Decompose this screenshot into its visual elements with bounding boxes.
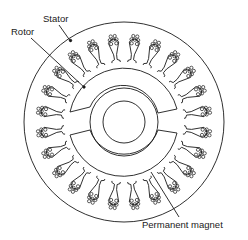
stator-slot bbox=[89, 44, 105, 68]
conductor bbox=[155, 48, 158, 51]
conductor bbox=[208, 107, 211, 110]
conductor bbox=[42, 89, 45, 92]
conductor bbox=[36, 130, 39, 133]
stator-bore-circle bbox=[65, 63, 183, 181]
conductor bbox=[61, 70, 64, 73]
conductor bbox=[110, 198, 113, 201]
conductor bbox=[135, 42, 138, 45]
conductor bbox=[44, 113, 47, 116]
conductor bbox=[76, 185, 79, 188]
conductor bbox=[68, 53, 71, 56]
conductor bbox=[75, 53, 78, 56]
conductor bbox=[196, 93, 199, 96]
conductor bbox=[136, 35, 139, 38]
conductor bbox=[132, 34, 135, 37]
rotor-label: Rotor bbox=[11, 27, 34, 37]
stator-slot bbox=[143, 176, 159, 200]
conductor bbox=[187, 74, 190, 77]
conductor bbox=[110, 42, 113, 45]
conductor bbox=[203, 152, 206, 155]
conductor bbox=[37, 107, 40, 110]
conductor bbox=[208, 134, 211, 137]
rotor-leader-dot bbox=[83, 86, 85, 88]
conductor bbox=[109, 206, 112, 209]
permanent-magnet-lower bbox=[70, 130, 177, 176]
conductor bbox=[44, 133, 47, 136]
conductor bbox=[190, 175, 193, 178]
conductor bbox=[55, 66, 58, 69]
conductor bbox=[71, 51, 74, 54]
conductor bbox=[202, 155, 205, 158]
conductor bbox=[95, 46, 98, 49]
conductor bbox=[72, 59, 75, 62]
conductor bbox=[201, 113, 204, 116]
stator-slot bbox=[178, 141, 202, 157]
conductor bbox=[203, 89, 206, 92]
conductor bbox=[192, 172, 195, 175]
conductor bbox=[43, 86, 46, 89]
conductor bbox=[168, 185, 171, 188]
conductor bbox=[91, 201, 94, 204]
conductor bbox=[174, 51, 177, 54]
conductor bbox=[58, 74, 61, 77]
conductor bbox=[200, 133, 203, 136]
conductor bbox=[58, 166, 61, 169]
conductor bbox=[71, 190, 74, 193]
shaft-circle bbox=[103, 101, 145, 143]
conductor bbox=[42, 152, 45, 155]
conductor bbox=[136, 206, 139, 209]
conductor bbox=[200, 108, 203, 111]
conductor bbox=[170, 188, 173, 191]
conductor bbox=[90, 192, 93, 195]
stator-leader-dot bbox=[69, 39, 71, 41]
stator-slots bbox=[36, 34, 211, 209]
conductor bbox=[194, 153, 197, 156]
conductor bbox=[115, 199, 118, 202]
conductor bbox=[132, 206, 135, 209]
conductor bbox=[55, 175, 58, 178]
conductor bbox=[150, 194, 153, 197]
conductor bbox=[184, 171, 187, 174]
conductor bbox=[168, 56, 171, 59]
motor-cross-section-diagram bbox=[0, 0, 248, 240]
conductor bbox=[88, 41, 91, 44]
conductor bbox=[109, 35, 112, 38]
stator-slot bbox=[46, 87, 70, 103]
permanent-magnet-upper bbox=[70, 68, 177, 113]
conductor bbox=[190, 66, 193, 69]
conductor bbox=[113, 206, 116, 209]
conductor bbox=[208, 111, 211, 114]
conductor bbox=[202, 86, 205, 89]
conductor bbox=[155, 192, 158, 195]
conductor bbox=[196, 148, 199, 151]
conductor bbox=[36, 111, 39, 114]
conductor bbox=[115, 42, 118, 45]
conductor bbox=[61, 171, 64, 174]
conductor bbox=[44, 108, 47, 111]
conductor bbox=[44, 128, 47, 131]
conductor bbox=[208, 130, 211, 133]
stator-slot bbox=[178, 87, 202, 103]
stator-slot bbox=[143, 44, 159, 68]
conductor bbox=[177, 188, 180, 191]
conductor bbox=[37, 134, 40, 137]
conductor bbox=[48, 148, 51, 151]
stator-leader-line bbox=[59, 25, 71, 42]
conductor bbox=[190, 73, 193, 76]
conductor bbox=[55, 168, 58, 171]
stator-slot bbox=[46, 141, 70, 157]
conductor bbox=[72, 182, 75, 185]
conductor bbox=[150, 46, 153, 49]
conductor bbox=[50, 153, 53, 156]
conductor bbox=[194, 88, 197, 91]
conductor bbox=[53, 172, 56, 175]
conductor bbox=[68, 188, 71, 191]
conductor bbox=[174, 190, 177, 193]
stator-label: Stator bbox=[43, 14, 68, 24]
conductor bbox=[130, 42, 133, 45]
conductor bbox=[173, 59, 176, 62]
conductor bbox=[53, 69, 56, 72]
conductor bbox=[88, 200, 91, 203]
rotor-core-circle bbox=[90, 88, 158, 156]
conductor bbox=[50, 88, 53, 91]
